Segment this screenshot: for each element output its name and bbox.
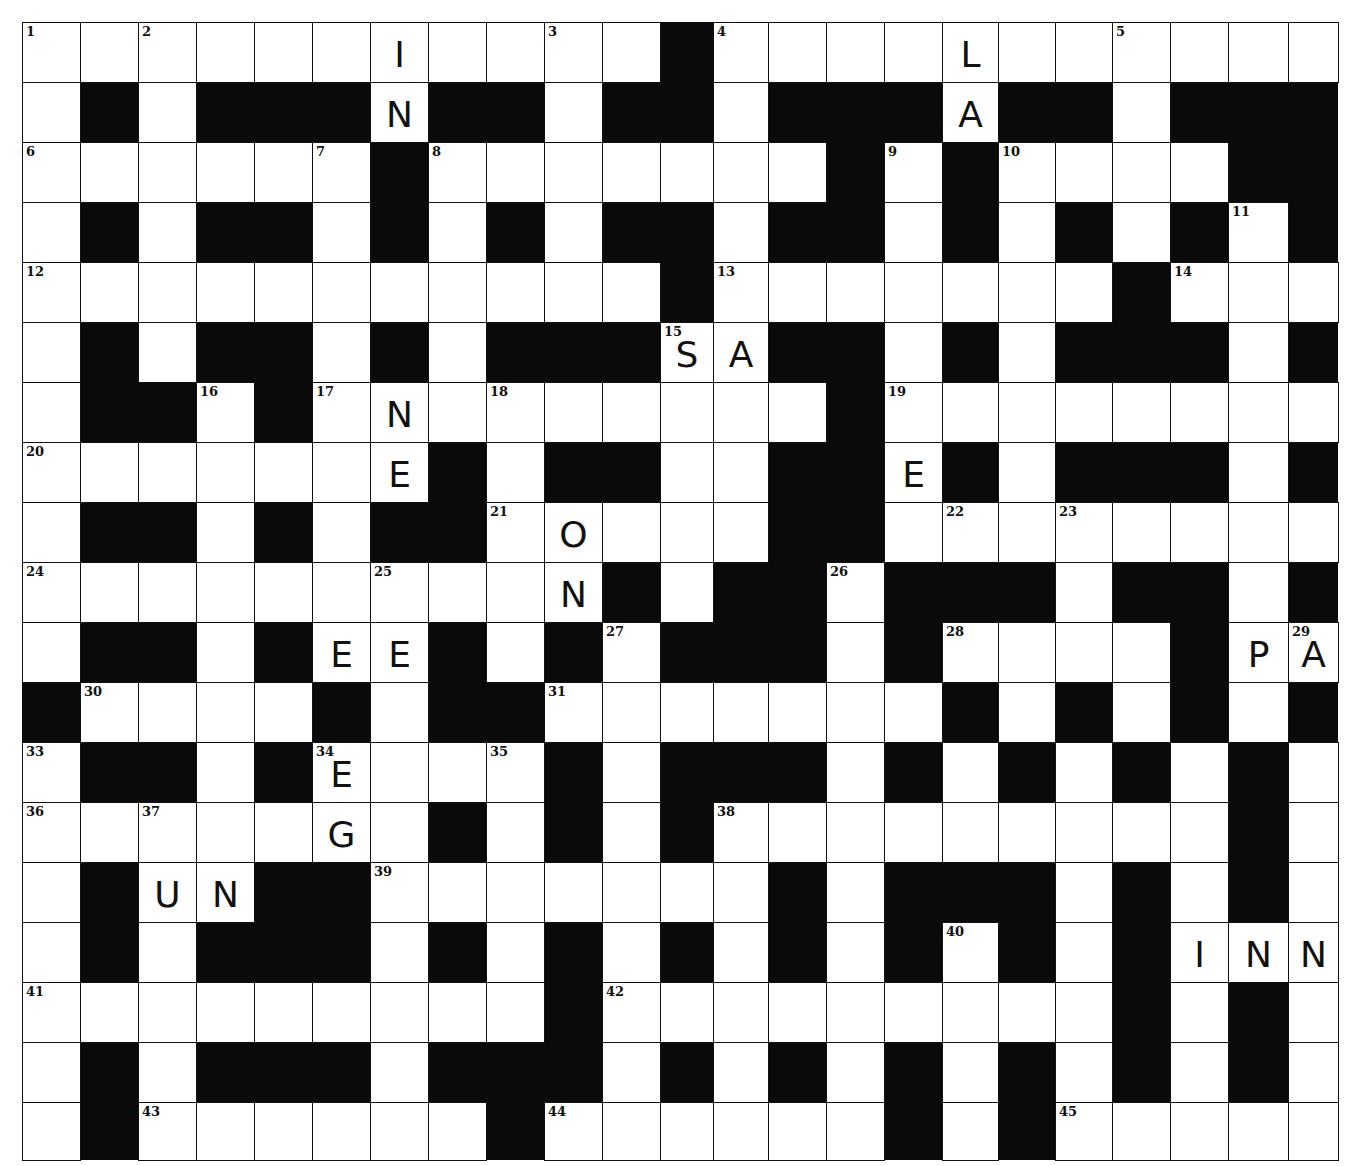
grid-cell[interactable] — [486, 802, 545, 863]
grid-cell[interactable] — [428, 262, 487, 323]
grid-cell[interactable] — [138, 142, 197, 203]
grid-cell[interactable]: 13 — [713, 262, 769, 323]
grid-cell[interactable]: 22 — [942, 502, 999, 563]
grid-cell[interactable] — [1228, 262, 1289, 323]
grid-cell[interactable]: L — [942, 22, 999, 83]
grid-cell[interactable] — [370, 1042, 429, 1103]
grid-cell[interactable] — [1228, 1102, 1289, 1161]
grid-cell[interactable] — [602, 1102, 661, 1161]
grid-cell[interactable] — [1288, 382, 1339, 443]
grid-cell[interactable]: 3 — [544, 22, 603, 83]
grid-cell[interactable]: 17 — [312, 382, 371, 443]
grid-cell[interactable] — [942, 802, 999, 863]
grid-cell[interactable]: E — [370, 442, 429, 503]
grid-cell[interactable] — [370, 742, 429, 803]
grid-cell[interactable] — [138, 442, 197, 503]
grid-cell[interactable]: 36 — [22, 802, 81, 863]
grid-cell[interactable] — [138, 202, 197, 263]
grid-cell[interactable] — [196, 1102, 255, 1161]
grid-cell[interactable] — [602, 262, 661, 323]
grid-cell[interactable] — [826, 622, 885, 683]
grid-cell[interactable]: 20 — [22, 442, 81, 503]
grid-cell[interactable] — [942, 382, 999, 443]
grid-cell[interactable] — [1228, 22, 1289, 83]
grid-cell[interactable] — [942, 1042, 999, 1103]
grid-cell[interactable]: 21 — [486, 502, 545, 563]
grid-cell[interactable]: 16 — [196, 382, 255, 443]
grid-cell[interactable] — [428, 742, 487, 803]
grid-cell[interactable] — [602, 862, 661, 923]
grid-cell[interactable] — [312, 22, 371, 83]
grid-cell[interactable] — [1112, 802, 1171, 863]
grid-cell[interactable] — [22, 922, 81, 983]
grid-cell[interactable] — [428, 862, 487, 923]
grid-cell[interactable] — [1288, 1102, 1339, 1161]
grid-cell[interactable]: 30 — [80, 682, 139, 743]
grid-cell[interactable] — [998, 22, 1056, 83]
grid-cell[interactable] — [713, 922, 769, 983]
grid-cell[interactable]: 26 — [826, 562, 885, 623]
grid-cell[interactable] — [138, 682, 197, 743]
grid-cell[interactable] — [602, 742, 661, 803]
grid-cell[interactable]: 12 — [22, 262, 81, 323]
grid-cell[interactable] — [713, 1102, 769, 1161]
grid-cell[interactable] — [22, 382, 81, 443]
grid-cell[interactable] — [660, 502, 714, 563]
grid-cell[interactable] — [768, 382, 827, 443]
grid-cell[interactable] — [884, 202, 943, 263]
grid-cell[interactable] — [1170, 142, 1229, 203]
grid-cell[interactable] — [768, 802, 827, 863]
grid-cell[interactable] — [486, 22, 545, 83]
grid-cell[interactable]: O — [544, 502, 603, 563]
grid-cell[interactable] — [660, 382, 714, 443]
grid-cell[interactable] — [713, 982, 769, 1043]
grid-cell[interactable] — [998, 502, 1056, 563]
grid-cell[interactable] — [826, 742, 885, 803]
grid-cell[interactable] — [660, 142, 714, 203]
grid-cell[interactable] — [1228, 382, 1289, 443]
grid-cell[interactable] — [1170, 742, 1229, 803]
grid-cell[interactable] — [826, 802, 885, 863]
grid-cell[interactable]: 41 — [22, 982, 81, 1043]
grid-cell[interactable] — [254, 682, 313, 743]
grid-cell[interactable] — [660, 562, 714, 623]
grid-cell[interactable]: G — [312, 802, 371, 863]
grid-cell[interactable] — [312, 442, 371, 503]
grid-cell[interactable] — [486, 562, 545, 623]
grid-cell[interactable] — [1112, 82, 1171, 143]
grid-cell[interactable] — [428, 982, 487, 1043]
grid-cell[interactable] — [602, 142, 661, 203]
grid-cell[interactable] — [1055, 562, 1113, 623]
grid-cell[interactable] — [1228, 502, 1289, 563]
grid-cell[interactable]: 10 — [998, 142, 1056, 203]
grid-cell[interactable] — [768, 682, 827, 743]
grid-cell[interactable] — [826, 262, 885, 323]
grid-cell[interactable] — [1170, 802, 1229, 863]
grid-cell[interactable] — [602, 382, 661, 443]
grid-cell[interactable] — [196, 982, 255, 1043]
grid-cell[interactable] — [660, 1102, 714, 1161]
grid-cell[interactable] — [942, 742, 999, 803]
grid-cell[interactable] — [884, 982, 943, 1043]
grid-cell[interactable] — [138, 262, 197, 323]
grid-cell[interactable]: 44 — [544, 1102, 603, 1161]
grid-cell[interactable] — [1112, 142, 1171, 203]
grid-cell[interactable] — [602, 802, 661, 863]
grid-cell[interactable]: 7 — [312, 142, 371, 203]
grid-cell[interactable] — [370, 1102, 429, 1161]
grid-cell[interactable] — [544, 202, 603, 263]
grid-cell[interactable] — [942, 1102, 999, 1161]
grid-cell[interactable] — [660, 682, 714, 743]
grid-cell[interactable] — [138, 562, 197, 623]
grid-cell[interactable] — [1055, 862, 1113, 923]
grid-cell[interactable] — [486, 142, 545, 203]
grid-cell[interactable] — [884, 262, 943, 323]
grid-cell[interactable] — [884, 22, 943, 83]
grid-cell[interactable] — [1055, 382, 1113, 443]
grid-cell[interactable] — [312, 262, 371, 323]
grid-cell[interactable] — [1228, 322, 1289, 383]
grid-cell[interactable] — [1288, 802, 1339, 863]
grid-cell[interactable]: 19 — [884, 382, 943, 443]
grid-cell[interactable]: E — [884, 442, 943, 503]
grid-cell[interactable] — [1228, 562, 1289, 623]
